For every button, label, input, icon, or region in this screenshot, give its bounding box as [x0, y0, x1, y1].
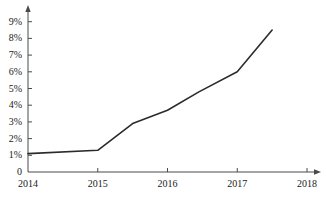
y-axis-tick-label: 3%: [0, 117, 22, 127]
x-axis-tick-label: 2017: [217, 179, 257, 189]
x-axis-ticks: [98, 168, 307, 172]
y-axis-tick-label: 9%: [0, 17, 22, 27]
arrow-up-icon: [25, 5, 30, 12]
y-axis-tick-label: 5%: [0, 84, 22, 94]
x-axis-tick-label: 2015: [78, 179, 118, 189]
y-axis-tick-label: 4%: [0, 100, 22, 110]
y-axis-tick-label: 6%: [0, 67, 22, 77]
x-axis-tick-label: 2014: [8, 179, 48, 189]
y-axis-tick-label: 1%: [0, 150, 22, 160]
y-axis-tick-label: 8%: [0, 33, 22, 43]
line-chart-plot: [0, 0, 326, 197]
y-axis-ticks: [28, 22, 32, 156]
y-axis-tick-label: 7%: [0, 50, 22, 60]
x-axis-tick-label: 2018: [287, 179, 326, 189]
x-axis-tick-label: 2016: [148, 179, 188, 189]
y-axis-tick-label: 0: [0, 167, 22, 177]
y-axis-tick-label: 2%: [0, 134, 22, 144]
data-series-line: [28, 30, 272, 154]
arrow-right-icon: [314, 169, 321, 174]
chart-container: 01%2%3%4%5%6%7%8%9% 20142015201620172018: [0, 0, 326, 197]
